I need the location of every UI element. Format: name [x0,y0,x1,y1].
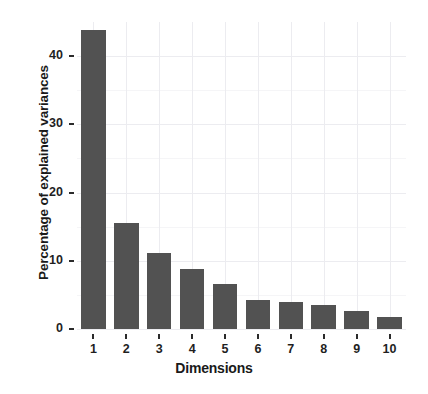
gridline-vertical [324,22,325,329]
x-tick-mark [158,334,160,339]
x-tick-label: 10 [370,342,410,356]
y-tick-mark [69,192,74,194]
gridline-horizontal [77,329,406,330]
y-tick-mark [69,55,74,57]
gridline-vertical [357,22,358,329]
x-tick-mark [356,334,358,339]
gridline-vertical [258,22,259,329]
y-tick-label: 0 [23,321,63,335]
x-tick-mark [224,334,226,339]
y-tick-label: 10 [23,253,63,267]
x-axis-title: Dimensions [0,360,428,376]
bar [246,300,271,329]
gridline-vertical [390,22,391,329]
y-tick-mark [69,260,74,262]
bar [147,253,172,329]
y-tick-mark [69,123,74,125]
x-tick-mark [389,334,391,339]
gridline-vertical [291,22,292,329]
x-tick-mark [92,334,94,339]
y-tick-label: 20 [23,185,63,199]
scree-plot: Percentage of explained variances 010203… [0,0,428,394]
bar [344,311,369,329]
plot-panel [77,22,406,329]
x-tick-mark [125,334,127,339]
bar [377,317,402,329]
x-tick-mark [290,334,292,339]
y-tick-mark [69,328,74,330]
bar [81,30,106,329]
bar [311,305,336,329]
bar [180,269,205,329]
gridline-vertical [225,22,226,329]
x-tick-mark [191,334,193,339]
y-tick-label: 30 [23,116,63,130]
y-tick-label: 40 [23,48,63,62]
x-tick-mark [323,334,325,339]
bar [114,223,139,329]
bar [213,284,238,329]
x-tick-mark [257,334,259,339]
bar [279,302,304,329]
